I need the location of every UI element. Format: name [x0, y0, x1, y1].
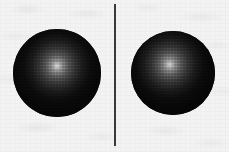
- left-sphere-grain: [13, 29, 101, 117]
- right-sphere: [131, 31, 215, 115]
- right-sphere-grain: [131, 31, 215, 115]
- image-canvas: [0, 0, 229, 152]
- vertical-divider-line: [114, 4, 116, 146]
- left-sphere: [13, 29, 101, 117]
